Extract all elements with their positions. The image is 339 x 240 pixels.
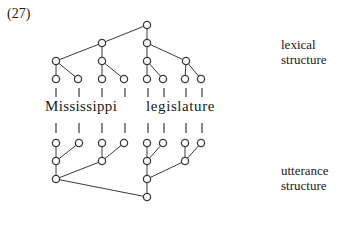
node-icon — [52, 157, 59, 164]
utterance-structure-label: utterance structure — [281, 163, 329, 193]
node-icon — [52, 175, 59, 182]
node-icon — [181, 75, 188, 82]
word-legislature: legislature — [146, 98, 215, 115]
label-line: structure — [281, 178, 329, 193]
label-line: structure — [281, 52, 326, 67]
node-icon — [143, 175, 150, 182]
node-icon — [197, 75, 204, 82]
node-icon — [182, 57, 189, 64]
node-icon — [98, 39, 105, 46]
utterance-nodes — [52, 139, 204, 200]
node-icon — [181, 139, 188, 146]
utterance-structure-edges — [56, 143, 201, 197]
word-mississippi: Mississippi — [45, 98, 117, 115]
node-icon — [98, 157, 105, 164]
node-icon — [75, 139, 82, 146]
node-icon — [143, 57, 150, 64]
node-icon — [120, 139, 127, 146]
node-icon — [181, 157, 188, 164]
node-icon — [159, 139, 166, 146]
label-line: lexical — [281, 37, 326, 52]
node-icon — [143, 157, 150, 164]
utterance-ticks — [56, 123, 202, 133]
node-icon — [98, 57, 105, 64]
label-line: utterance — [281, 163, 329, 178]
node-icon — [197, 139, 204, 146]
lexical-nodes — [52, 21, 204, 82]
lexical-structure-edges — [56, 25, 201, 79]
node-icon — [52, 75, 59, 82]
node-icon — [159, 75, 166, 82]
lexical-structure-label: lexical structure — [281, 37, 326, 67]
node-icon — [98, 139, 105, 146]
node-icon — [120, 75, 127, 82]
node-icon — [74, 75, 81, 82]
node-icon — [143, 139, 150, 146]
lexical-ticks — [56, 88, 202, 97]
node-icon — [52, 139, 59, 146]
node-icon — [143, 21, 150, 28]
node-icon — [143, 39, 150, 46]
node-icon — [143, 75, 150, 82]
node-icon — [52, 57, 59, 64]
node-icon — [98, 75, 105, 82]
node-icon — [143, 193, 150, 200]
